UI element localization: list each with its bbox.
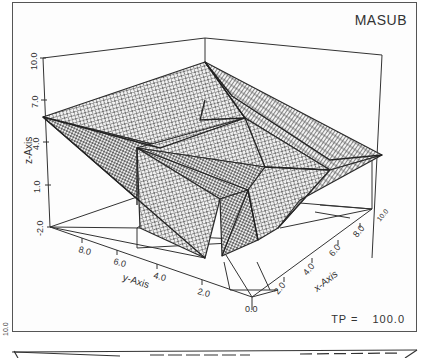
z-tick-10: 10.0 bbox=[29, 52, 39, 70]
next-panel-z-tick: 10.0 bbox=[2, 322, 9, 336]
y-tick-4: 4.0 bbox=[152, 270, 167, 283]
x-tick-10: 10.0 bbox=[375, 208, 389, 223]
z-axis: 10.0 7.0 4.0 1.0 -2.0 z-Axis bbox=[23, 52, 53, 236]
x-tick-0: 0.0 bbox=[245, 304, 258, 314]
y-tick-6: 6.0 bbox=[112, 256, 127, 269]
x-tick-6: 6.0 bbox=[327, 242, 343, 258]
parameter-value: 100.0 bbox=[372, 313, 405, 325]
x-tick-2: 2.0 bbox=[272, 280, 288, 296]
surface-plot: 10.0 7.0 4.0 1.0 -2.0 z-Axis 8.0 6.0 4.0… bbox=[0, 0, 423, 358]
plot-title: MASUB bbox=[355, 12, 407, 28]
y-axis-label: y-Axis bbox=[121, 271, 150, 290]
y-tick-2: 2.0 bbox=[196, 286, 211, 299]
parameter-annotation: TP =100.0 bbox=[331, 313, 405, 325]
x-axis-label: x-Axis bbox=[311, 268, 340, 294]
z-tick-7: 7.0 bbox=[30, 95, 40, 108]
y-tick-8: 8.0 bbox=[77, 244, 92, 257]
next-panel-partial bbox=[12, 350, 417, 358]
parameter-label: TP = bbox=[331, 313, 358, 325]
x-tick-8: 8.0 bbox=[351, 223, 367, 239]
x-tick-4: 4.0 bbox=[301, 261, 317, 277]
z-axis-label: z-Axis bbox=[23, 137, 34, 164]
z-tick-1: 1.0 bbox=[32, 180, 42, 193]
z-tick-neg2: -2.0 bbox=[35, 220, 45, 236]
